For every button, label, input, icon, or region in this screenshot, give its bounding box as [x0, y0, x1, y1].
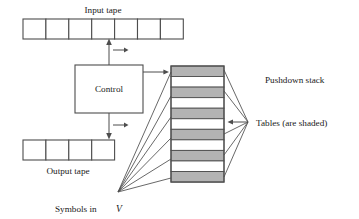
- output-tape-group: [23, 140, 115, 160]
- symbols-in-label: Symbols in: [55, 204, 97, 214]
- stack-band-shaded: [171, 108, 224, 119]
- input-tape-cell: [23, 19, 46, 39]
- input-tape-group: [23, 19, 183, 39]
- tables-fan-right: [224, 70, 248, 177]
- stack-band-shaded: [171, 129, 224, 140]
- figure-canvas: Input tape Control Output tap: [0, 0, 359, 219]
- control-label: Control: [95, 84, 124, 94]
- pushdown-automaton-diagram: Input tape Control Output tap: [0, 0, 359, 219]
- input-head-direction-arrow: [113, 48, 129, 53]
- input-tape-cell: [115, 19, 138, 39]
- stack-band-shaded: [171, 172, 224, 183]
- symbols-in-variable: V: [116, 203, 123, 214]
- input-tape-cell: [46, 19, 69, 39]
- tables-label: Tables (are shaded): [256, 118, 327, 128]
- input-tape-cell: [160, 19, 183, 39]
- output-tape-label: Output tape: [46, 166, 89, 176]
- stack-band-shaded: [171, 87, 224, 98]
- output-tape-cell: [92, 140, 115, 160]
- stack-band-plain: [171, 77, 224, 88]
- control-to-stack-arrow: [143, 69, 169, 74]
- stack-band-shaded: [171, 150, 224, 161]
- stack-band-shaded: [171, 66, 224, 77]
- input-tape-label: Input tape: [85, 5, 122, 15]
- pushdown-stack-group: [171, 66, 224, 182]
- output-tape-cell: [69, 140, 92, 160]
- input-head-arrow: [106, 39, 112, 66]
- output-tape-cell: [46, 140, 69, 160]
- output-head-arrow: [106, 113, 112, 140]
- stack-band-plain: [171, 140, 224, 151]
- stack-band-plain: [171, 161, 224, 172]
- input-tape-cell: [69, 19, 92, 39]
- stack-band-plain: [171, 119, 224, 130]
- output-tape-cell: [23, 140, 46, 160]
- input-tape-cell: [138, 19, 161, 39]
- stack-band-plain: [171, 98, 224, 109]
- output-head-direction-arrow: [113, 123, 129, 128]
- pushdown-stack-label: Pushdown stack: [265, 75, 325, 85]
- input-tape-cell: [92, 19, 115, 39]
